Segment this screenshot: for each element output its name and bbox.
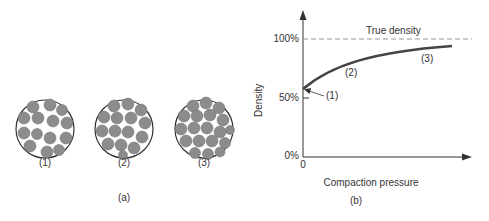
y-tick-50: 50% — [279, 92, 299, 103]
y-axis-arrow-icon — [300, 10, 307, 20]
packing-stage-1 — [16, 99, 74, 158]
panel-a-caption: (a) — [118, 192, 130, 203]
x-axis-arrow-icon — [462, 154, 472, 161]
annotation-arrow-1 — [304, 88, 324, 96]
stage-label-3: (3) — [198, 157, 210, 168]
true-density-label: True density — [366, 25, 421, 36]
stage-label-2: (2) — [118, 157, 130, 168]
y-tick-0: 0% — [285, 150, 299, 161]
curve-annotation-3: (3) — [421, 53, 433, 64]
stage-label-1: (1) — [39, 157, 51, 168]
curve-annotation-1: (1) — [326, 90, 338, 101]
y-tick-100: 100% — [273, 33, 299, 44]
panel-b-caption: (b) — [350, 195, 362, 206]
x-origin-label: 0 — [300, 159, 306, 170]
packing-stage-2 — [95, 98, 153, 160]
y-axis-title: Density — [253, 84, 264, 117]
curve-annotation-2: (2) — [345, 67, 357, 78]
packing-stage-3 — [175, 97, 235, 160]
x-axis-title: Compaction pressure — [323, 177, 418, 188]
